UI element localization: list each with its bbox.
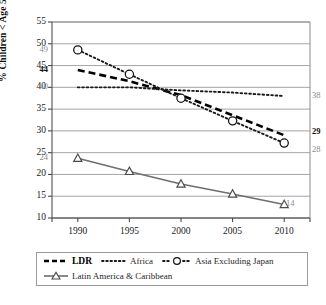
series-value-label: 44 — [28, 64, 48, 74]
legend-item-africa[interactable]: Africa — [101, 256, 153, 266]
series-value-label: 49 — [28, 44, 48, 54]
legend-marker-solid-triangle-icon — [43, 271, 69, 281]
series-value-label: 14 — [286, 198, 295, 208]
y-tick-label: 15 — [22, 190, 46, 200]
legend-marker-dotted-icon — [101, 256, 127, 266]
legend-label-asia-excluding-japan: Asia Excluding Japan — [195, 256, 273, 266]
series-value-label: 29 — [312, 126, 321, 136]
legend-marker-dotted-circle-icon — [162, 256, 192, 266]
x-tick-label: 2005 — [211, 226, 255, 236]
legend-label-latin-america-caribbean: Latin America & Caribbean — [72, 271, 172, 281]
legend-label-ldr: LDR — [72, 256, 92, 266]
x-tick-label: 1990 — [56, 226, 100, 236]
legend-item-latin-america-caribbean[interactable]: Latin America & Caribbean — [43, 271, 172, 281]
legend-row-2: Latin America & Caribbean — [43, 271, 181, 281]
x-tick-label: 2000 — [159, 226, 203, 236]
series-value-label: 40 — [28, 81, 48, 91]
series-value-label: 28 — [312, 144, 321, 154]
y-tick-label: 30 — [22, 125, 46, 135]
legend-item-asia-excluding-japan[interactable]: Asia Excluding Japan — [162, 256, 273, 266]
y-tick-label: 10 — [22, 212, 46, 222]
y-tick-label: 20 — [22, 168, 46, 178]
y-tick-label: 35 — [22, 103, 46, 113]
legend-row-1: LDR Africa Asia Excluding Japan — [43, 256, 283, 266]
series-latin-america-caribbean — [74, 154, 289, 208]
legend-label-africa: Africa — [130, 256, 153, 266]
chart-figure: % Children < Age 5 Stunted 1015202530354… — [0, 0, 326, 305]
chart-legend: LDR Africa Asia Excluding Japan — [36, 252, 308, 286]
legend-marker-dashed-icon — [43, 256, 69, 266]
series-asia-excluding-japan — [74, 46, 289, 147]
legend-item-ldr[interactable]: LDR — [43, 256, 92, 266]
series-value-label: 38 — [312, 90, 321, 100]
y-tick-label: 55 — [22, 16, 46, 26]
x-tick-label: 2010 — [262, 226, 306, 236]
x-tick-label: 1995 — [107, 226, 151, 236]
series-value-label: 24 — [28, 152, 48, 162]
